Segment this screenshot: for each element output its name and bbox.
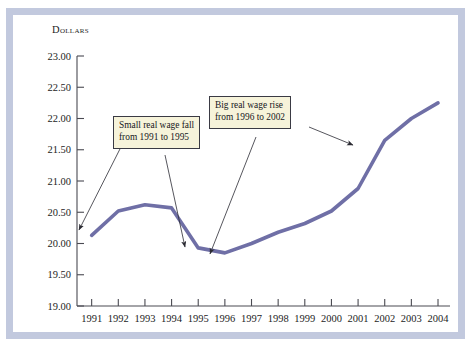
y-axis-tick-label: 23.00	[47, 51, 71, 62]
leader-line-to-1996	[210, 137, 256, 254]
callout-line-2: from 1991 to 1995	[119, 132, 194, 144]
x-axis-ticks	[92, 299, 438, 306]
y-axis-tick-label: 22.00	[47, 113, 71, 124]
x-axis-tick-label: 1992	[108, 313, 129, 324]
y-axis-tick-label: 19.50	[47, 269, 71, 280]
figure-root: Dollars 23.0022.5022.0021.5021.0020.5020…	[0, 0, 471, 347]
x-axis-tick-label: 1997	[241, 313, 262, 324]
line-chart-canvas: 23.0022.5022.0021.5021.0020.5020.0019.50…	[13, 15, 458, 332]
callout-line-1: Small real wage fall	[119, 120, 194, 132]
x-axis-tick-label: 1991	[81, 313, 102, 324]
y-axis-tick-label: 22.50	[47, 82, 71, 93]
y-axis-tick-label: 20.00	[47, 238, 71, 249]
callout-small-real-wage-fall: Small real wage fall from 1991 to 1995	[113, 116, 200, 149]
x-axis-tick-label: 1994	[161, 313, 183, 324]
leader-line-to-1995	[165, 155, 185, 247]
x-axis-tick-label: 2003	[401, 313, 422, 324]
x-axis-tick-label: 1998	[268, 313, 289, 324]
x-axis-tick-label: 1999	[294, 313, 315, 324]
y-axis-tick-labels: 23.0022.5022.0021.5021.0020.5020.0019.50…	[47, 51, 71, 312]
x-axis-tick-label: 2002	[374, 313, 395, 324]
x-axis-tick-label: 1993	[134, 313, 155, 324]
y-axis-tick-label: 21.00	[47, 176, 71, 187]
x-axis-tick-label: 1996	[214, 313, 235, 324]
y-axis-tick-label: 19.00	[47, 301, 71, 312]
y-axis-tick-label: 20.50	[47, 207, 71, 218]
x-axis-tick-label: 2001	[348, 313, 369, 324]
callout-line-2: from 1996 to 2002	[215, 112, 285, 124]
callout-line-1: Big real wage rise	[215, 100, 285, 112]
x-axis-tick-label: 1995	[188, 313, 209, 324]
y-axis-tick-label: 21.50	[47, 144, 71, 155]
leader-line-to-2002	[309, 127, 353, 145]
x-axis-tick-labels: 1991199219931994199519961997199819992000…	[81, 313, 449, 324]
leader-line-to-1991	[79, 139, 125, 230]
x-axis-tick-label: 2004	[428, 313, 450, 324]
plot-area: Dollars 23.0022.5022.0021.5021.0020.5020…	[13, 15, 458, 332]
callout-big-real-wage-rise: Big real wage rise from 1996 to 2002	[209, 96, 291, 129]
x-axis-tick-label: 2000	[321, 313, 342, 324]
y-axis-ticks	[77, 56, 84, 306]
